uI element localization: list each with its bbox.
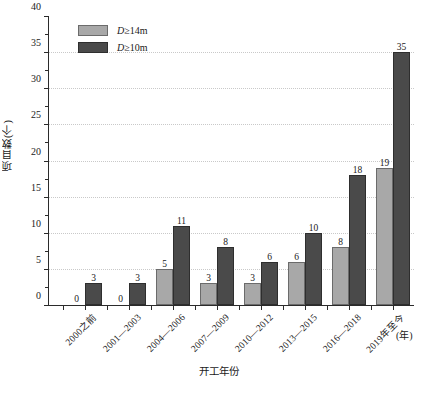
x-tick [173,305,174,310]
y-tick-label: 20 [31,147,41,157]
bar-value-label: 8 [338,237,343,247]
bar-d14[interactable]: 8 [332,247,349,305]
y-tick-minor [45,142,48,143]
bar-value-label: 18 [353,165,363,175]
x-axis-title: 开工年份 [0,366,438,378]
legend-swatch-d14 [78,25,108,36]
bar-value-label: 6 [267,252,272,262]
y-tick-label: 10 [31,219,41,229]
bar-value-label: 35 [397,42,407,52]
bar-d10[interactable]: 8 [217,247,234,305]
y-tick-minor [45,251,48,252]
legend-label-d10: D≥10m [117,42,148,53]
x-tick [305,305,306,310]
y-tick-minor [45,179,48,180]
bar-value-label: 3 [250,273,255,283]
y-tick-minor [45,70,48,71]
bar-value-label-zero: 0 [68,294,85,304]
y-tick-minor [45,287,48,288]
x-tick [349,305,350,310]
x-tick-minor [195,306,196,310]
x-axis-unit-label: (年) [396,330,413,341]
bar-d10[interactable]: 11 [173,226,190,305]
y-tick-minor [45,215,48,216]
x-tick [261,305,262,310]
x-tick-label: 2001—2003 [101,312,143,354]
x-tick-minor [63,306,64,310]
y-tick-major [44,305,49,306]
bar-d10[interactable]: 6 [261,262,278,305]
legend-swatch-d10 [78,42,108,53]
legend-item-d10: D≥10m [78,39,148,56]
bar-d14[interactable]: 3 [244,283,261,305]
x-tick-label: 2013—2015 [277,312,319,354]
y-tick-major [44,197,49,198]
y-tick-label: 0 [36,291,41,301]
bar-value-label: 19 [380,158,390,168]
bar-d14[interactable]: 3 [200,283,217,305]
bar-value-label: 3 [206,273,211,283]
bar-d14[interactable]: 19 [376,168,393,305]
bar-value-label: 8 [223,237,228,247]
plot-area: 0510152025303540 005336819331186101835 2… [48,16,414,306]
x-tick-label: 2016—2018 [321,312,363,354]
y-tick-major [44,52,49,53]
chart-figure: 项目数(个) 0510152025303540 0053368193311861… [0,0,438,394]
y-tick-minor [45,34,48,35]
y-tick-label: 30 [31,74,41,84]
legend-label-d14: D≥14m [117,25,148,36]
x-tick [393,305,394,310]
x-tick-minor [283,306,284,310]
legend-label-d14-value: ≥14m [124,25,147,36]
x-tick-label: 2010—2012 [233,312,275,354]
x-tick-minor [239,306,240,310]
x-tick-label: 2000之前 [64,312,99,347]
y-axis-title: 项目数(个) [2,120,18,171]
y-tick-label: 35 [31,38,41,48]
x-tick-label: 2007—2009 [189,312,231,354]
bar-value-label: 3 [135,273,140,283]
bar-d10[interactable]: 35 [393,52,410,305]
x-tick-minor [151,306,152,310]
x-tick [85,305,86,310]
bar-value-label: 11 [177,216,186,226]
y-tick-major [44,269,49,270]
gridline [49,161,414,162]
x-tick-minor [371,306,372,310]
y-tick-label: 25 [31,110,41,120]
y-tick-minor [45,106,48,107]
x-tick-label: 2004—2006 [145,312,187,354]
y-tick-major [44,233,49,234]
bar-d14[interactable]: 5 [156,269,173,305]
y-tick-label: 15 [31,183,41,193]
x-tick-minor [107,306,108,310]
y-tick-label: 5 [36,255,41,265]
bar-value-label: 3 [91,273,96,283]
gridline [49,124,414,125]
y-tick-major [44,88,49,89]
y-tick-major [44,16,49,17]
bar-value-label: 10 [309,223,319,233]
bar-d10[interactable]: 3 [129,283,146,305]
x-axis-line [48,305,414,306]
legend-item-d14: D≥14m [78,22,148,39]
chart-legend: D≥14m D≥10m [74,20,152,58]
y-tick-label: 40 [31,2,41,12]
bar-d10[interactable]: 3 [85,283,102,305]
gridline [49,88,414,89]
bar-d14[interactable]: 6 [288,262,305,305]
bar-d10[interactable]: 10 [305,233,322,305]
y-tick-major [44,124,49,125]
x-tick [129,305,130,310]
legend-label-d10-value: ≥10m [124,42,147,53]
x-tick [217,305,218,310]
bar-value-label: 6 [294,252,299,262]
bar-value-label-zero: 0 [112,294,129,304]
x-tick-minor [327,306,328,310]
y-tick-major [44,161,49,162]
bar-value-label: 5 [162,259,167,269]
bar-d10[interactable]: 18 [349,175,366,305]
